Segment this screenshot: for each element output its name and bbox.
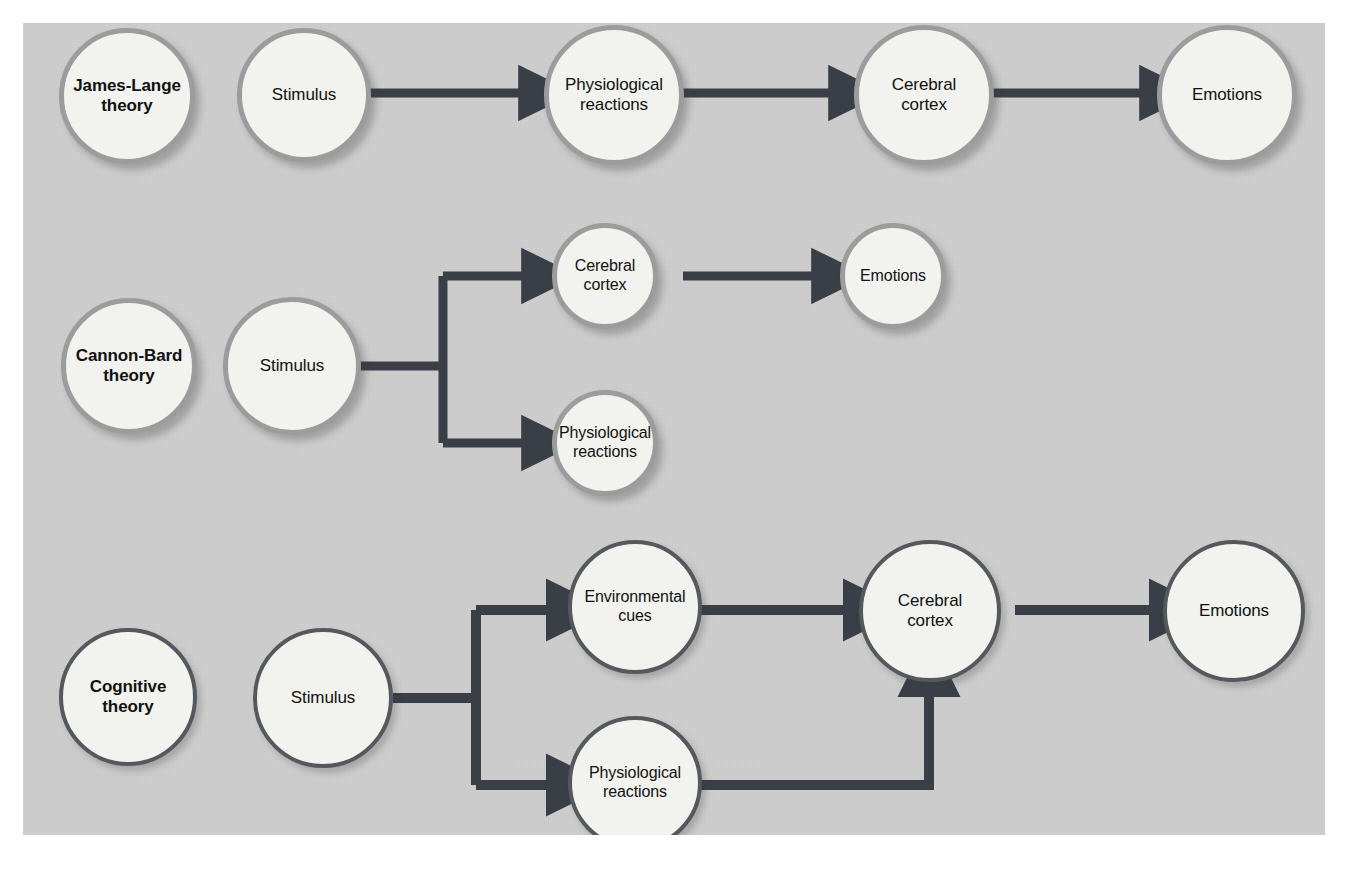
- node-cog-stimulus[interactable]: Stimulus: [253, 628, 393, 768]
- connector-cog-stimulus-branch: [393, 610, 476, 785]
- connector-cb-stimulus-branch: [356, 276, 443, 443]
- node-label: Emotions: [1193, 601, 1275, 621]
- node-james-lange-theory[interactable]: James-Lange theory: [59, 28, 195, 164]
- node-label-line1: Cerebral: [575, 257, 636, 274]
- node-label: Physiological reactions: [559, 75, 669, 114]
- node-label: Emotions: [854, 267, 932, 286]
- node-jl-stimulus[interactable]: Stimulus: [237, 28, 371, 162]
- theory-label-line2: theory: [101, 96, 152, 115]
- node-label: Cerebral cortex: [886, 75, 962, 114]
- connector-cog-physiological-to-cortex: [701, 695, 929, 785]
- node-label-line2: cues: [618, 607, 651, 624]
- node-label: Cerebral cortex: [892, 591, 968, 630]
- node-label: Physiological reactions: [583, 764, 687, 801]
- node-label-line1: Physiological: [559, 424, 651, 441]
- node-label-line1: Environmental: [585, 588, 686, 605]
- node-label-line1: Cerebral: [892, 75, 956, 94]
- node-label-line2: cortex: [907, 611, 953, 630]
- node-jl-cerebral-cortex[interactable]: Cerebral cortex: [854, 25, 994, 165]
- theory-label-line1: James-Lange: [73, 76, 181, 95]
- node-label: Cognitive theory: [84, 677, 173, 716]
- node-label: Environmental cues: [579, 588, 692, 625]
- node-label-line2: reactions: [580, 95, 648, 114]
- node-label-line2: cortex: [584, 276, 627, 293]
- node-label-line1: Cerebral: [898, 591, 962, 610]
- theory-label-line2: theory: [102, 697, 153, 716]
- node-label-line2: reactions: [603, 783, 667, 800]
- node-label-line1: Physiological: [565, 75, 663, 94]
- diagram-panel: James-Lange theory Stimulus Physiologica…: [23, 23, 1325, 835]
- node-cog-cerebral-cortex[interactable]: Cerebral cortex: [859, 540, 1001, 682]
- node-cog-environmental-cues[interactable]: Environmental cues: [568, 540, 702, 674]
- node-jl-emotions[interactable]: Emotions: [1157, 25, 1297, 165]
- connector-layer: [23, 23, 1325, 835]
- theory-label-line1: Cannon-Bard: [76, 346, 183, 365]
- theory-label-line1: Cognitive: [90, 677, 167, 696]
- node-label: Emotions: [1186, 85, 1268, 105]
- node-cb-stimulus[interactable]: Stimulus: [223, 297, 361, 435]
- node-cb-emotions[interactable]: Emotions: [840, 223, 946, 329]
- node-label: Stimulus: [285, 688, 361, 708]
- node-cb-cerebral-cortex[interactable]: Cerebral cortex: [552, 223, 658, 329]
- node-jl-physiological-reactions[interactable]: Physiological reactions: [544, 25, 684, 165]
- node-label: Cerebral cortex: [569, 257, 642, 294]
- node-cannon-bard-theory[interactable]: Cannon-Bard theory: [61, 298, 197, 434]
- node-label-line2: reactions: [573, 443, 637, 460]
- node-label: Cannon-Bard theory: [70, 346, 189, 385]
- node-label: Physiological reactions: [553, 424, 657, 461]
- node-label: James-Lange theory: [67, 76, 187, 115]
- node-label-line2: cortex: [901, 95, 947, 114]
- node-cognitive-theory[interactable]: Cognitive theory: [59, 628, 197, 766]
- node-label-line1: Physiological: [589, 764, 681, 781]
- node-label: Stimulus: [254, 356, 330, 376]
- node-label: Stimulus: [266, 85, 342, 105]
- node-cog-emotions[interactable]: Emotions: [1163, 540, 1305, 682]
- emotion-theories-diagram: James-Lange theory Stimulus Physiologica…: [0, 0, 1352, 871]
- theory-label-line2: theory: [103, 366, 154, 385]
- node-cb-physiological-reactions[interactable]: Physiological reactions: [552, 390, 658, 496]
